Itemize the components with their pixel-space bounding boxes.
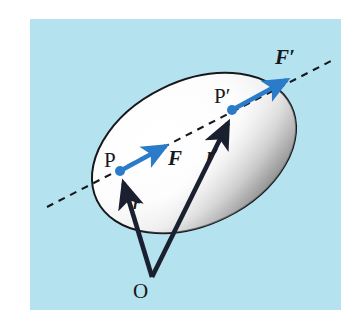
vector-F-prime-label: F′ xyxy=(275,47,295,68)
vector-r-label: r xyxy=(133,195,140,212)
vector-F-label: F xyxy=(168,148,182,169)
point-O-label: O xyxy=(133,281,148,302)
point-P-label: P xyxy=(104,150,116,171)
vector-r-prime-label: r′ xyxy=(207,146,218,163)
point-P-prime-label: P′ xyxy=(214,86,230,107)
physics-diagram-figure: P P′ O F F′ r r′ xyxy=(0,0,358,324)
point-P-dot xyxy=(115,166,125,176)
